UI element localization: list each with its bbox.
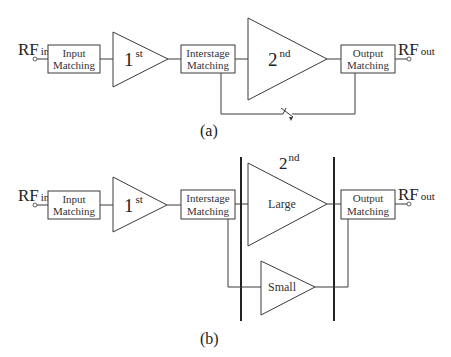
small-path-wire-out — [315, 219, 348, 287]
rf-in-label: RFin — [18, 40, 50, 59]
input-matching-line1: Input — [62, 47, 85, 59]
diagram-b: RFin Input Matching 1st Interstage Match… — [18, 151, 435, 348]
small-amplifier-label: Small — [268, 280, 297, 294]
rf-out-label: RFout — [398, 185, 435, 204]
amplifier-block-diagram: RFin Input Matching 1st Interstage Match… — [0, 0, 451, 357]
first-stage-amplifier-icon — [113, 32, 168, 87]
second-stage-label: 2nd — [279, 151, 300, 173]
input-matching-line1: Input — [62, 193, 85, 205]
rf-out-label: RFout — [398, 40, 435, 59]
caption-b: (b) — [200, 330, 219, 348]
diagram-a: RFin Input Matching 1st Interstage Match… — [18, 18, 435, 140]
rf-in-terminal-icon — [33, 57, 37, 61]
input-matching-line2: Matching — [53, 205, 96, 217]
caption-a: (a) — [200, 122, 218, 140]
input-matching-line2: Matching — [53, 59, 96, 71]
interstage-matching-line2: Matching — [187, 59, 230, 71]
rf-in-terminal-icon — [33, 203, 37, 207]
rf-in-label: RFin — [18, 186, 50, 205]
output-matching-line2: Matching — [347, 59, 390, 71]
interstage-matching-line1: Interstage — [186, 47, 229, 59]
output-matching-line1: Output — [353, 192, 384, 204]
interstage-matching-line2: Matching — [187, 205, 230, 217]
output-matching-line1: Output — [353, 47, 384, 59]
bypass-wire-right — [292, 73, 355, 114]
interstage-matching-line1: Interstage — [186, 192, 229, 204]
large-amplifier-label: Large — [268, 197, 296, 211]
second-stage-amplifier-icon — [248, 18, 327, 100]
output-matching-line2: Matching — [347, 205, 390, 217]
